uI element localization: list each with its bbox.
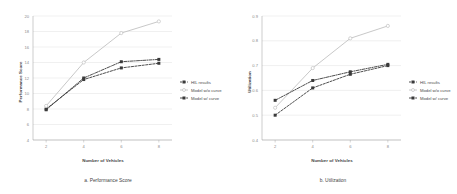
legend-entry-label: HIL results (191, 80, 211, 85)
utilization-plot: 0.40.50.60.70.80.92468 Number of Vehicle… (229, 0, 457, 194)
legend-right: HIL resultsModel w/o curveModel w/ curve (409, 80, 451, 101)
y-tick-label: 0.6 (252, 88, 258, 93)
x-axis-title: Number of Vehicles (311, 158, 353, 163)
y-tick-label: 0.9 (252, 14, 258, 19)
x-tick-label: 2 (45, 144, 48, 149)
legend-left: HIL resultsModel w/o curveModel w/ curve (180, 80, 222, 101)
y-tick-label: 0.4 (252, 138, 258, 143)
data-point-marker (120, 60, 123, 63)
data-point-marker (82, 61, 85, 64)
legend-marker (183, 89, 186, 92)
data-point-marker (45, 104, 48, 107)
series-group-right (273, 24, 389, 116)
x-tick-label: 4 (83, 144, 86, 149)
series-line-model-w-o-curve (275, 26, 388, 108)
data-point-marker (82, 77, 85, 80)
legend-marker (411, 81, 414, 84)
series-group-left (45, 20, 161, 111)
panel-caption: a. Performance Score (84, 178, 132, 183)
series-line-model-w-curve (275, 64, 388, 100)
y-tick-label: 0.8 (252, 38, 258, 43)
data-point-marker (120, 31, 123, 34)
data-point-marker (157, 58, 160, 61)
x-tick-label: 2 (274, 144, 277, 149)
y-tick-label: 8 (27, 107, 30, 112)
data-point-marker (311, 86, 314, 89)
y-axis-title: Utilization (247, 71, 252, 93)
y-tick-label: 0.5 (252, 113, 258, 118)
data-point-marker (348, 37, 351, 40)
legend-entry-label: Model w/o curve (191, 88, 222, 93)
legend-marker (411, 89, 414, 92)
axes-group-left (33, 16, 172, 143)
y-axis-title: Performance Score (18, 61, 23, 103)
data-point-marker (348, 70, 351, 73)
legend-entry-label: Model w/ curve (191, 96, 220, 101)
data-point-marker (45, 108, 48, 111)
grid-group-left (33, 16, 172, 140)
y-tick-label: 14 (24, 60, 29, 65)
tick-labels-right: 0.40.50.60.70.80.92468 (252, 14, 389, 150)
y-tick-label: 4 (27, 138, 30, 143)
legend-entry-label: Model w/ curve (420, 96, 449, 101)
y-tick-label: 20 (24, 14, 29, 19)
series-line-model-w-curve (46, 59, 159, 109)
data-point-marker (273, 106, 276, 109)
series-line-model-w-o-curve (46, 21, 159, 105)
data-point-marker (157, 62, 160, 65)
tick-labels-left: 4681012141618202468 (24, 14, 160, 150)
legend-entry-label: Model w/o curve (420, 88, 451, 93)
x-tick-label: 6 (349, 144, 352, 149)
legend-entry-label: HIL results (420, 80, 440, 85)
y-tick-label: 12 (24, 76, 29, 81)
data-point-marker (273, 99, 276, 102)
y-tick-label: 0.7 (252, 63, 258, 68)
x-axis-title: Number of Vehicles (82, 158, 124, 163)
chart-panel-performance-score: 4681012141618202468 Number of Vehicles P… (0, 0, 229, 194)
x-tick-label: 4 (311, 144, 314, 149)
y-tick-label: 10 (24, 91, 29, 96)
figure-container: 4681012141618202468 Number of Vehicles P… (0, 0, 457, 194)
y-tick-label: 16 (24, 45, 29, 50)
data-point-marker (157, 20, 160, 23)
x-tick-label: 8 (158, 144, 161, 149)
data-point-marker (311, 79, 314, 82)
data-point-marker (386, 24, 389, 27)
x-tick-label: 6 (120, 144, 123, 149)
data-point-marker (386, 63, 389, 66)
grid-group-right (262, 16, 401, 140)
chart-panel-utilization: 0.40.50.60.70.80.92468 Number of Vehicle… (229, 0, 457, 194)
axes-group-right (262, 16, 401, 143)
legend-marker (411, 97, 414, 100)
data-point-marker (120, 66, 123, 69)
legend-marker (183, 81, 186, 84)
data-point-marker (311, 66, 314, 69)
x-tick-label: 8 (386, 144, 389, 149)
performance-score-plot: 4681012141618202468 Number of Vehicles P… (0, 0, 229, 194)
y-tick-label: 18 (24, 29, 29, 34)
legend-marker (183, 97, 186, 100)
data-point-marker (273, 114, 276, 117)
y-tick-label: 6 (27, 122, 30, 127)
panel-caption: b. Utilization (319, 178, 346, 183)
